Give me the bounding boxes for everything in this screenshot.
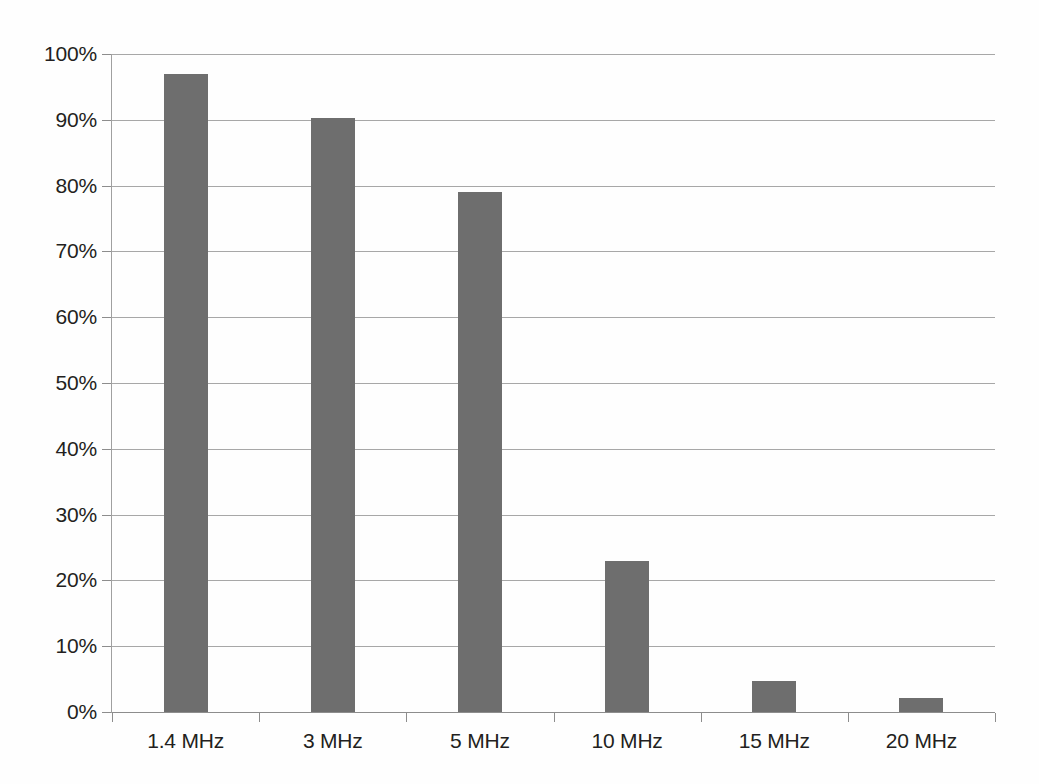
- y-axis-tick-label: 0%: [5, 701, 97, 722]
- gridline: [112, 646, 995, 647]
- x-axis-category-label: 15 MHz: [701, 729, 848, 753]
- y-axis-tick-label: 30%: [5, 504, 97, 525]
- y-axis-tick-label: 80%: [5, 175, 97, 196]
- x-axis-tick: [112, 713, 113, 722]
- gridline: [112, 54, 995, 55]
- bar[interactable]: [164, 74, 208, 712]
- y-axis-tick-label-wrap: 60%: [0, 306, 97, 327]
- x-axis-tick: [259, 713, 260, 722]
- x-axis-category-label: 10 MHz: [554, 729, 701, 753]
- y-axis-tick-label: 40%: [5, 438, 97, 459]
- y-axis-tick-label-wrap: 50%: [0, 372, 97, 393]
- gridline: [112, 186, 995, 187]
- x-axis-category-label: 3 MHz: [259, 729, 406, 753]
- y-axis-tick-label-wrap: 70%: [0, 240, 97, 261]
- gridline: [112, 580, 995, 581]
- gridline: [112, 120, 995, 121]
- y-axis-tick-label: 10%: [5, 635, 97, 656]
- bar[interactable]: [899, 698, 943, 712]
- y-axis-tick-label-wrap: 100%: [0, 43, 97, 64]
- gridline: [112, 383, 995, 384]
- gridline: [112, 251, 995, 252]
- x-axis-tick: [701, 713, 702, 722]
- y-axis-tick-label: 70%: [5, 240, 97, 261]
- bar-chart: 0%10%20%30%40%50%60%70%80%90%100% 1.4 MH…: [0, 0, 1039, 784]
- y-axis-tick-label: 20%: [5, 569, 97, 590]
- x-axis-category-label: 1.4 MHz: [112, 729, 259, 753]
- y-axis-tick-label-wrap: 0%: [0, 701, 97, 722]
- bar[interactable]: [605, 561, 649, 712]
- y-axis-tick-label-wrap: 30%: [0, 504, 97, 525]
- y-axis-tick-label: 60%: [5, 306, 97, 327]
- y-axis-tick-label-wrap: 80%: [0, 175, 97, 196]
- bar[interactable]: [311, 118, 355, 712]
- x-axis-category-label: 20 MHz: [848, 729, 995, 753]
- y-axis-tick-label-wrap: 90%: [0, 109, 97, 130]
- x-axis-tick: [406, 713, 407, 722]
- gridline: [112, 317, 995, 318]
- gridline: [112, 515, 995, 516]
- y-axis-tick-label-wrap: 40%: [0, 438, 97, 459]
- y-axis-tick-label-wrap: 10%: [0, 635, 97, 656]
- gridline: [112, 449, 995, 450]
- y-axis-tick-label: 50%: [5, 372, 97, 393]
- x-axis-tick: [554, 713, 555, 722]
- bar[interactable]: [458, 192, 502, 712]
- bar[interactable]: [752, 681, 796, 712]
- plot-area: [112, 54, 995, 712]
- x-axis-tick: [995, 713, 996, 722]
- y-axis-tick-label: 100%: [5, 43, 97, 64]
- y-axis-tick-label: 90%: [5, 109, 97, 130]
- x-axis-category-label: 5 MHz: [406, 729, 553, 753]
- y-axis-tick-label-wrap: 20%: [0, 569, 97, 590]
- x-axis-tick: [848, 713, 849, 722]
